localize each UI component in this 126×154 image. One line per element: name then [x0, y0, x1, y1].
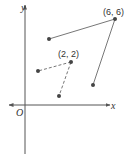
- point-lower-right: [91, 83, 95, 87]
- y-axis-label: y: [20, 2, 26, 13]
- coordinate-diagram: x y O (6, 6) (2, 2): [0, 0, 126, 154]
- label-point-2-2: (2, 2): [58, 49, 79, 59]
- point-below: [57, 94, 61, 98]
- label-point-6-6: (6, 6): [103, 7, 124, 17]
- x-axis-label: x: [110, 100, 116, 111]
- point-2-2: [69, 60, 73, 64]
- point-upper-left: [47, 37, 51, 41]
- dashed-segment-left: [38, 62, 71, 71]
- solid-segment-upper: [49, 19, 115, 39]
- solid-segment-lower: [93, 19, 115, 85]
- point-left: [36, 69, 40, 73]
- origin-label: O: [16, 107, 23, 118]
- point-6-6: [113, 17, 117, 21]
- dashed-segment-down: [59, 62, 71, 96]
